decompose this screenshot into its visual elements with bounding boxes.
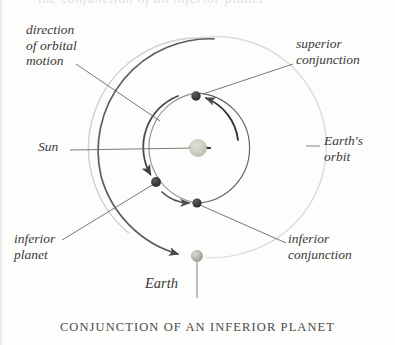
label-earth: Earth <box>145 276 178 292</box>
inferior-conjunction-arc-arrow <box>162 192 189 203</box>
label-direction-of-orbital-motion: direction of orbital motion <box>26 22 77 69</box>
leader-inferior-planet <box>62 184 154 240</box>
label-inferior-conjunction: inferior conjunction <box>288 231 352 262</box>
planet-inferior-body <box>151 177 161 187</box>
figure-caption: CONJUNCTION OF AN INFERIOR PLANET <box>0 320 395 335</box>
figure-page: the conjunction of an inferior planet <box>0 0 395 345</box>
earth-body <box>191 250 202 261</box>
label-superior-conjunction: superior conjunction <box>296 36 360 67</box>
leader-inferior-conjunction <box>200 205 286 243</box>
label-inferior-planet: inferior planet <box>14 231 55 262</box>
sun-body <box>189 139 206 156</box>
label-sun: Sun <box>38 139 58 155</box>
superior-conjunction-arc-arrow <box>206 98 238 140</box>
leader-superior-conjunction <box>203 64 293 94</box>
orbital-motion-arc-inner <box>143 96 178 175</box>
planet-inferior-conjunction-body <box>192 198 201 207</box>
celestial-bodies <box>151 91 206 261</box>
planet-superior-conjunction-body <box>191 91 200 100</box>
label-earths-orbit: Earth's orbit <box>324 133 363 164</box>
